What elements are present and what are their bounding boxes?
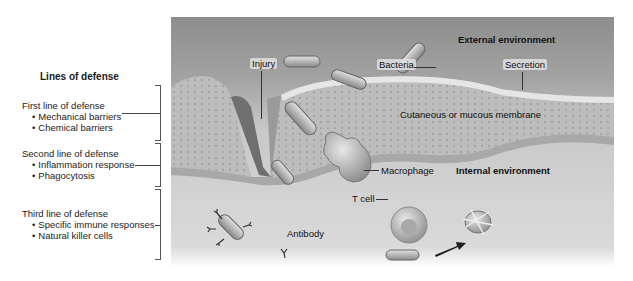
label-bacteria: Bacteria [377,59,416,70]
leader-macrophage [364,170,379,171]
legend-item: Chemical barriers [22,122,121,133]
legend-item: Inflammation response [22,159,134,170]
legend-group-second: Second line of defense Inflammation resp… [22,148,134,181]
legend-item: Mechanical barriers [22,111,121,122]
bracket-second [155,143,161,187]
legend-group-first: First line of defense Mechanical barrier… [22,100,121,133]
legend-title: Lines of defense [40,71,119,82]
leader-bacteria [414,67,436,68]
illustration-panel: External environment Injury Bacteria Sec… [171,17,614,267]
legend-heading: First line of defense [22,100,121,111]
label-internal-environment: Internal environment [456,165,550,176]
legend-item: Natural killer cells [22,230,155,241]
label-membrane: Cutaneous or mucous membrane [400,109,541,120]
leader-t-cell [376,199,388,200]
label-external-environment: External environment [458,34,555,45]
leader-secretion [522,72,523,90]
leader-injury [261,71,262,119]
legend-item: Specific immune responses [22,219,155,230]
label-secretion: Secretion [503,59,547,70]
legend-heading: Second line of defense [22,148,134,159]
bracket-third [155,189,161,260]
label-t-cell: T cell [352,193,375,204]
label-macrophage: Macrophage [381,165,434,176]
tissue-illustration [171,17,614,267]
legend-group-third: Third line of defense Specific immune re… [22,208,155,241]
label-antibody: Antibody [287,228,324,239]
bracket-first [155,85,161,141]
label-injury: Injury [250,58,277,69]
legend-item: Phagocytosis [22,170,134,181]
legend-heading: Third line of defense [22,208,155,219]
